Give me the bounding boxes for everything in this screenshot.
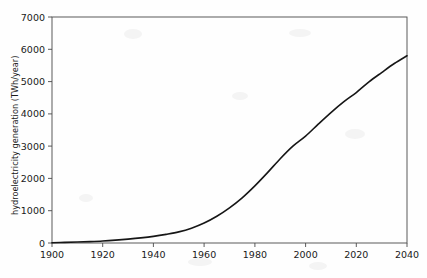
y-tick-label: 5000 <box>21 76 45 87</box>
y-tick-label: 4000 <box>21 108 45 119</box>
x-tick-label: 1940 <box>141 249 165 260</box>
x-axis-tick-labels: 1900 1920 1940 1960 1980 2000 2020 2040 <box>40 249 419 260</box>
x-tick-label: 1960 <box>192 249 216 260</box>
y-tick-label: 3000 <box>21 141 45 152</box>
x-tick-label: 2020 <box>344 249 368 260</box>
y-tick-label: 1000 <box>21 205 45 216</box>
x-tick-label: 1920 <box>91 249 115 260</box>
x-axis-ticks <box>52 243 407 247</box>
y-tick-label: 6000 <box>21 44 45 55</box>
data-line-hydroelectricity <box>52 56 407 243</box>
scan-noise <box>79 29 365 270</box>
y-tick-label: 7000 <box>21 12 45 23</box>
chart-svg: 7000 6000 5000 4000 3000 2000 1000 0 190… <box>0 0 427 278</box>
x-tick-label: 2040 <box>395 249 419 260</box>
y-axis-title: hydroelectricity generation (TWh/year) <box>10 56 20 215</box>
y-tick-label: 2000 <box>21 173 45 184</box>
y-axis-tick-labels: 7000 6000 5000 4000 3000 2000 1000 0 <box>21 12 45 249</box>
y-axis-ticks <box>48 17 52 243</box>
x-tick-label: 1980 <box>243 249 267 260</box>
chart-figure: 7000 6000 5000 4000 3000 2000 1000 0 190… <box>0 0 427 278</box>
y-tick-label: 0 <box>39 238 45 249</box>
x-tick-label: 1900 <box>40 249 64 260</box>
x-tick-label: 2000 <box>294 249 318 260</box>
